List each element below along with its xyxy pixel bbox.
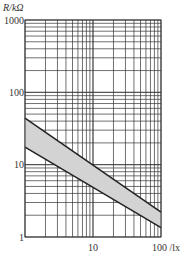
resistance-vs-illuminance-chart: R/kΩ 1101001000 10100 /lx (0, 0, 183, 259)
y-tick-label: 1000 (4, 15, 24, 26)
x-tick-labels: 10100 /lx (88, 242, 180, 253)
x-tick-label: 100 /lx (152, 242, 180, 253)
y-axis-label: R/kΩ (2, 2, 24, 13)
y-tick-label: 100 (9, 87, 24, 98)
y-tick-labels: 1101001000 (4, 15, 24, 243)
y-tick-label: 10 (14, 159, 24, 170)
y-tick-label: 1 (19, 232, 24, 243)
x-tick-label: 10 (88, 242, 98, 253)
